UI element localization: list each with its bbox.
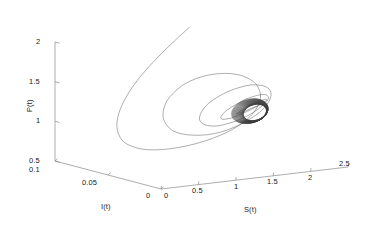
tick-y-0p1 [55,159,58,161]
tick-label-y-0p05: 0.05 [82,179,97,187]
tick-x-1p5 [273,173,274,176]
tick-label-z-2: 2 [36,38,40,46]
tick-x-0 [161,186,162,189]
trajectory-curve [117,27,271,150]
axis-title-y: I(t) [101,203,111,211]
tick-label-x-1: 1 [234,183,238,191]
tick-x-0p5 [198,181,199,184]
limit-cycle-path [231,99,268,124]
plot-canvas [0,0,378,236]
tick-label-x-2: 2 [308,174,312,182]
tick-label-y-0: 0 [146,192,150,200]
tick-z-1 [55,121,60,122]
tick-z-0p5 [55,161,60,162]
tick-label-y-0p1: 0.1 [29,166,40,174]
tick-x-2 [311,168,312,171]
tick-z-1p5 [55,82,60,83]
tick-label-x-0: 0 [164,192,168,200]
tick-label-x-1p5: 1.5 [267,178,278,186]
tick-label-z-0p5: 0.5 [29,157,40,165]
axis-lines [55,42,348,189]
tick-label-z-1p5: 1.5 [29,78,40,86]
axis-title-x: S(t) [244,206,256,214]
axis-title-z: P(t) [26,100,34,112]
figure-3d-phase-portrait: 2 1.5 1 0.5 P(t) 0.1 0.05 0 I(t) 0 0.5 1… [0,0,378,236]
tick-label-z-1: 1 [36,117,40,125]
axis-x-line [161,167,348,189]
tick-x-1 [236,177,237,180]
axis-ticks [55,42,349,189]
trajectory-path [117,27,271,150]
limit-cycle-band [231,99,268,124]
tick-y-0p05 [108,173,111,175]
tick-label-x-0p5: 0.5 [192,187,203,195]
tick-z-2 [55,42,60,43]
tick-label-x-2p5: 2.5 [339,160,350,168]
